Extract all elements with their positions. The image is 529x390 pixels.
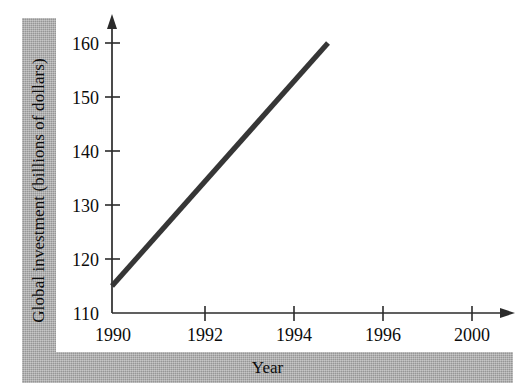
x-tick-label-1996: 1996 xyxy=(365,325,401,345)
y-tick-label-140: 140 xyxy=(72,142,99,162)
plot-area: 160 150 140 130 120 110 1990 1992 1994 1… xyxy=(0,0,529,390)
x-tick-label-1990: 1990 xyxy=(95,325,131,345)
y-tick-label-120: 120 xyxy=(72,250,99,270)
y-axis-arrow-icon xyxy=(107,14,117,29)
x-axis-arrow-icon xyxy=(500,308,515,318)
x-tick-label-1992: 1992 xyxy=(187,325,223,345)
y-tick-label-160: 160 xyxy=(72,34,99,54)
x-tick-label-2000: 2000 xyxy=(454,325,490,345)
x-tick-label-1994: 1994 xyxy=(276,325,312,345)
y-tick-label-130: 130 xyxy=(72,196,99,216)
y-tick-label-110: 110 xyxy=(73,304,99,324)
chart-figure: Global investment (billions of dollars) … xyxy=(0,0,529,390)
data-line-global-investment xyxy=(112,43,328,286)
y-tick-label-150: 150 xyxy=(72,88,99,108)
